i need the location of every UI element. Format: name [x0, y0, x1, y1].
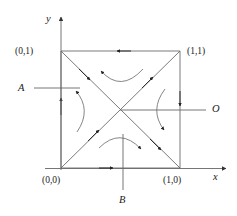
axes-group	[45, 17, 226, 170]
x-axis-label: x	[213, 172, 218, 183]
y-axis-label: y	[46, 14, 51, 25]
diagonal-arrow-upper-left	[79, 69, 90, 80]
corner-label-top-left: (0,1)	[15, 47, 33, 57]
callout-label-A: A	[18, 83, 24, 94]
callout-label-B: B	[119, 195, 125, 206]
corner-label-bottom-right: (1,0)	[163, 176, 181, 186]
flow-arc-right	[157, 89, 165, 130]
diagonal-arrow-upper-right	[142, 77, 153, 88]
figure-container: y x (0,1) (1,1) (0,0) (1,0) A O B	[0, 0, 237, 216]
flow-arc-left	[76, 91, 84, 132]
diagonal-arrow-lower-left	[88, 130, 99, 141]
flow-arc-bottom	[99, 138, 141, 149]
diagonal-arrow-lower-right	[150, 139, 161, 150]
corner-label-top-right: (1,1)	[187, 47, 205, 57]
diagonals-group	[61, 51, 180, 168]
callout-label-O: O	[212, 104, 220, 115]
diagram-canvas	[0, 0, 237, 216]
flow-arc-top	[101, 69, 143, 82]
corner-label-bottom-left: (0,0)	[42, 176, 60, 186]
edge-direction-arrows	[99, 51, 180, 168]
